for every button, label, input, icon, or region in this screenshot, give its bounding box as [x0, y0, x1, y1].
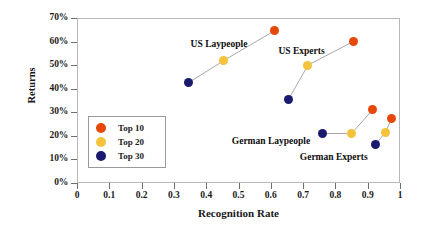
- x-axis-tick-label: 0.4: [191, 190, 221, 200]
- legend: Top 10Top 20Top 30: [88, 116, 166, 168]
- scatter-chart: 0%10%20%30%40%50%60%70% 00.10.20.30.40.5…: [0, 0, 423, 233]
- data-point[interactable]: [381, 128, 390, 137]
- x-axis-tick-label: 1: [385, 190, 415, 200]
- x-axis-tick-label: 0.8: [320, 190, 350, 200]
- group-label: German Experts: [300, 152, 368, 162]
- x-axis-tick: [239, 183, 240, 189]
- y-axis-tick-label: 70%: [22, 12, 68, 22]
- x-axis-title: Recognition Rate: [77, 207, 400, 219]
- x-axis-tick: [77, 183, 78, 189]
- legend-item-label: Top 20: [118, 137, 144, 147]
- x-axis-tick: [174, 183, 175, 189]
- y-axis-tick: [71, 136, 77, 137]
- y-axis-tick: [71, 18, 77, 19]
- x-axis-tick: [335, 183, 336, 189]
- group-label: German Laypeople: [232, 136, 310, 146]
- y-axis-tick: [71, 159, 77, 160]
- x-axis-tick: [400, 183, 401, 189]
- legend-item-label: Top 10: [118, 123, 144, 133]
- x-axis-tick: [303, 183, 304, 189]
- x-axis-tick-label: 0.7: [288, 190, 318, 200]
- y-axis-tick: [71, 65, 77, 66]
- legend-item[interactable]: Top 20: [89, 135, 165, 149]
- y-axis-tick-label: 20%: [22, 130, 68, 140]
- y-axis-title: Returns: [26, 46, 37, 126]
- x-axis-tick-label: 0.5: [224, 190, 254, 200]
- x-axis-tick: [142, 183, 143, 189]
- data-point[interactable]: [284, 95, 293, 104]
- group-label: US Experts: [278, 46, 324, 56]
- y-axis-tick-label: 10%: [22, 153, 68, 163]
- x-axis-tick-label: 0.9: [353, 190, 383, 200]
- legend-item-label: Top 30: [118, 151, 144, 161]
- x-axis-tick: [271, 183, 272, 189]
- legend-item[interactable]: Top 30: [89, 149, 165, 163]
- data-point[interactable]: [349, 37, 358, 46]
- legend-swatch-icon: [96, 151, 106, 161]
- x-axis-tick-label: 0.2: [127, 190, 157, 200]
- group-label: US Laypeople: [191, 39, 248, 49]
- data-point[interactable]: [371, 140, 380, 149]
- legend-swatch-icon: [96, 123, 106, 133]
- data-point[interactable]: [270, 26, 279, 35]
- x-axis-tick: [368, 183, 369, 189]
- x-axis-tick: [206, 183, 207, 189]
- x-axis-tick-label: 0: [62, 190, 92, 200]
- legend-item[interactable]: Top 10: [89, 121, 165, 135]
- legend-swatch-icon: [96, 137, 106, 147]
- y-axis-tick: [71, 42, 77, 43]
- x-axis-tick-label: 0.6: [256, 190, 286, 200]
- x-axis-tick-label: 0.1: [94, 190, 124, 200]
- data-point[interactable]: [318, 129, 327, 138]
- x-axis-tick-label: 0.3: [159, 190, 189, 200]
- data-point[interactable]: [347, 129, 356, 138]
- y-axis-tick: [71, 112, 77, 113]
- x-axis-tick: [109, 183, 110, 189]
- y-axis-tick: [71, 89, 77, 90]
- y-axis-tick-label: 60%: [22, 36, 68, 46]
- y-axis-tick-label: 0%: [22, 177, 68, 187]
